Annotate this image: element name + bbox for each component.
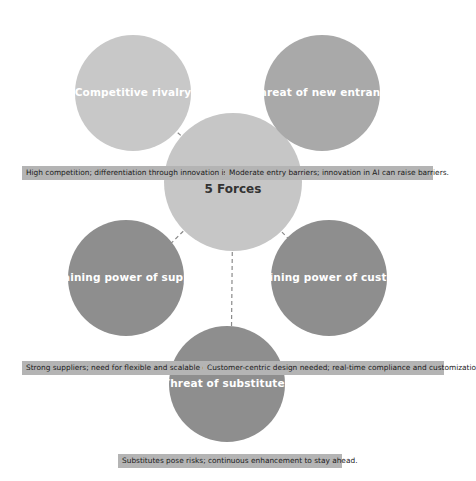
- force-label-bargaining-power-of-customers: Bargaining power of customers: [271, 272, 387, 284]
- force-label-bargaining-power-of-suppliers: Bargaining power of suppliers: [68, 272, 184, 284]
- desc-threat-of-substitutes: Substitutes pose risks; continuous enhan…: [118, 454, 342, 468]
- force-circle-competitive-rivalry[interactable]: Competitive rivalry: [75, 35, 191, 151]
- force-circle-threat-of-substitutes[interactable]: Threat of substitutes: [169, 326, 285, 442]
- force-label-threat-of-new-entrants: Threat of new entrants: [264, 87, 380, 99]
- force-circle-bargaining-power-of-customers[interactable]: Bargaining power of customers: [271, 220, 387, 336]
- force-label-competitive-rivalry: Competitive rivalry: [75, 87, 191, 99]
- force-label-threat-of-substitutes: Threat of substitutes: [169, 378, 285, 390]
- desc-bargaining-power-of-customers: Customer-centric design needed; real-tim…: [203, 361, 444, 375]
- hub-title-line2: 5 Forces: [205, 182, 262, 197]
- desc-threat-of-new-entrants: Moderate entry barriers; innovation in A…: [225, 166, 433, 180]
- desc-competitive-rivalry: High competition; differentiation throug…: [22, 166, 236, 180]
- force-circle-bargaining-power-of-suppliers[interactable]: Bargaining power of suppliers: [68, 220, 184, 336]
- porters-five-forces-diagram: Porter's 5 Forces Competitive rivalryThr…: [0, 0, 476, 481]
- force-circle-threat-of-new-entrants[interactable]: Threat of new entrants: [264, 35, 380, 151]
